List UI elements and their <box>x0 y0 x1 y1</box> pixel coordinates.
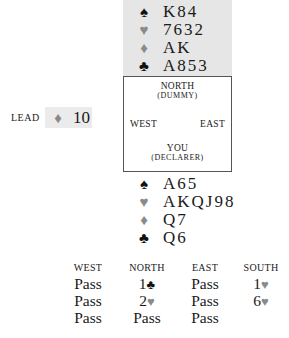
club-icon: ♣ <box>135 57 155 76</box>
bid-r2-south: 6♥ <box>233 292 289 310</box>
bid-r1-west: Pass <box>60 275 116 293</box>
heart-icon: ♥ <box>147 294 155 309</box>
south-diamonds-cards: Q7 <box>163 210 188 229</box>
auction-header-south: SOUTH <box>233 262 289 273</box>
bid-level: 2 <box>139 292 147 309</box>
bid-r2-north: 2♥ <box>119 292 175 310</box>
lead-label: LEAD <box>11 112 40 123</box>
heart-icon: ♥ <box>261 294 269 309</box>
north-hearts-row: ♥7632 <box>135 20 205 39</box>
south-clubs-cards: Q6 <box>163 228 188 247</box>
bid-r1-north: 1♣ <box>119 275 175 293</box>
bid-r3-west: Pass <box>60 309 116 327</box>
seat-east: EAST <box>200 119 225 129</box>
north-hearts-cards: 7632 <box>163 20 205 39</box>
bid-level: 6 <box>253 292 261 309</box>
seat-south-sub: (DECLARER) <box>124 153 231 162</box>
heart-icon: ♥ <box>261 277 269 292</box>
diamond-icon: ♦ <box>49 108 67 129</box>
bid-r3-east: Pass <box>177 309 233 327</box>
north-spades-row: ♠K84 <box>135 2 198 21</box>
lead-card: ♦10 <box>45 107 92 128</box>
north-spades-cards: K84 <box>163 2 198 21</box>
bid-r2-west: Pass <box>60 292 116 310</box>
seat-north-label: NORTH <box>161 81 195 91</box>
bid-r2-east: Pass <box>177 292 233 310</box>
seat-west: WEST <box>130 119 157 129</box>
lead-card-rank: 10 <box>73 108 90 127</box>
bid-r3-north: Pass <box>119 309 175 327</box>
club-icon: ♣ <box>135 229 155 248</box>
bid-level: 1 <box>139 275 147 292</box>
table-diagram: NORTH (DUMMY) WEST EAST YOU (DECLARER) <box>123 76 232 172</box>
north-diamonds-cards: AK <box>163 38 192 57</box>
seat-north: NORTH (DUMMY) <box>124 81 231 100</box>
south-hearts-row: ♥AKQJ98 <box>135 192 235 211</box>
seat-north-sub: (DUMMY) <box>124 91 231 100</box>
south-spades-cards: A65 <box>163 174 198 193</box>
club-icon: ♣ <box>147 277 156 292</box>
south-spades-row: ♠A65 <box>135 174 198 193</box>
north-diamonds-row: ♦AK <box>135 38 192 57</box>
north-clubs-row: ♣A853 <box>135 56 209 75</box>
south-diamonds-row: ♦Q7 <box>135 210 188 229</box>
bid-level: 1 <box>253 275 261 292</box>
seat-south-label: YOU <box>167 143 188 153</box>
south-clubs-row: ♣Q6 <box>135 228 188 247</box>
bid-r1-east: Pass <box>177 275 233 293</box>
bid-r1-south: 1♥ <box>233 275 289 293</box>
auction-header-north: NORTH <box>119 262 175 273</box>
north-clubs-cards: A853 <box>163 56 209 75</box>
seat-south: YOU (DECLARER) <box>124 143 231 162</box>
auction-header-east: EAST <box>177 262 233 273</box>
south-hearts-cards: AKQJ98 <box>163 192 235 211</box>
auction-header-west: WEST <box>60 262 116 273</box>
